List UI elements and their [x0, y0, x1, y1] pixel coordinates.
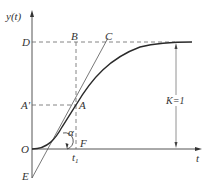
step-response-diagram: y(t) t D B C A' A O E F t1 α K=1 — [0, 0, 209, 192]
angle-alpha-label: α — [68, 127, 74, 138]
tangent-line — [32, 38, 108, 178]
gain-label: K=1 — [166, 96, 184, 106]
t1-subscript: 1 — [75, 157, 79, 165]
y-axis-label: y(t) — [6, 11, 21, 22]
point-d-label: D — [22, 37, 30, 48]
point-f-label: F — [80, 138, 87, 149]
point-e-label: E — [22, 171, 29, 182]
gain-arrow-down-icon — [175, 142, 178, 148]
t1-label: t1 — [72, 152, 79, 165]
angle-arrow-icon — [66, 143, 69, 149]
point-b-label: B — [71, 31, 78, 42]
point-a-prime-label: A' — [21, 100, 30, 111]
point-a-label: A — [79, 100, 86, 111]
point-c-label: C — [105, 31, 112, 42]
x-axis-label: t — [196, 153, 199, 164]
origin-label: O — [21, 144, 29, 155]
x-axis-arrow-icon — [195, 147, 202, 151]
y-axis-arrow-icon — [30, 10, 34, 17]
gain-arrow-up-icon — [175, 43, 178, 49]
